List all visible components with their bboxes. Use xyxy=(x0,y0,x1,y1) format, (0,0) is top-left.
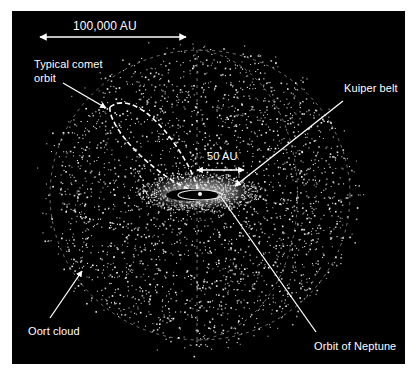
comet-orbit-label-line2: orbit xyxy=(34,72,56,85)
kuiper-belt-callout-arrow xyxy=(235,101,343,186)
kuiper-belt-label: Kuiper belt xyxy=(344,82,398,95)
oort-cloud-diagram xyxy=(0,0,415,372)
comet-orbit-callout-arrow xyxy=(63,83,106,108)
oort-cloud-label: Oort cloud xyxy=(28,325,80,338)
oort-cloud-callout-arrow xyxy=(50,271,82,318)
neptune-orbit-label: Orbit of Neptune xyxy=(314,340,396,353)
neptune-callout-line xyxy=(221,197,316,332)
sun-icon xyxy=(198,192,202,196)
comet-orbit-label-line1: Typical comet xyxy=(34,58,103,71)
scale-label-50-au: 50 AU xyxy=(207,150,237,163)
scale-label-100000-au: 100,000 AU xyxy=(73,20,137,33)
